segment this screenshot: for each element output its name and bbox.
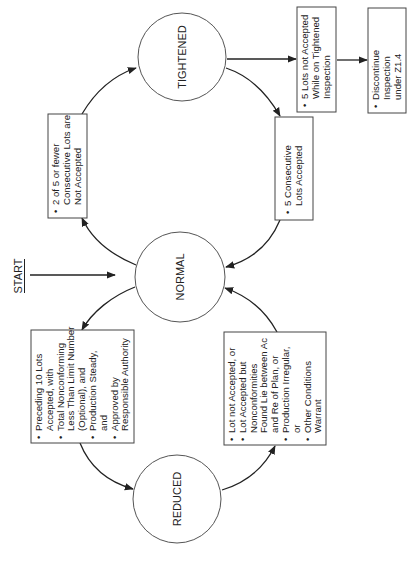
condition-line: 5 Lots not Accepted (299, 15, 310, 99)
condition-line: Warrant (312, 399, 323, 433)
condition-line: Consecutive Lots are (61, 115, 72, 205)
condition-line: Approved by (109, 377, 120, 431)
start-label-group: START (12, 258, 25, 293)
state-reduced: REDUCED (133, 455, 221, 543)
discontinue-box: • Discontinue Inspection under Z1.4 (368, 8, 406, 113)
edge-normal-to-tighten-condition (82, 218, 136, 265)
condition-line: 5 Consecutive (282, 145, 293, 206)
state-reduced-label: REDUCED (171, 472, 183, 526)
condition-line: Lot Accepted but (237, 361, 248, 433)
bullet: • (87, 436, 98, 439)
condition-line: Discontinue (370, 50, 381, 100)
edge-condition-to-normal (226, 220, 280, 267)
bullet: • (280, 438, 291, 441)
bullet: • (299, 104, 310, 107)
condition-normal-to-tightened: • 2 of 5 or fewer Consecutive Lots are N… (48, 114, 87, 218)
bullet: • (109, 436, 120, 439)
state-normal-label: NORMAL (174, 253, 186, 300)
condition-normal-to-reduced: • Preceding 10 Lots Accepted, with • Tot… (31, 326, 134, 443)
bullet: • (282, 211, 293, 214)
condition-line: Total Nonconforming (55, 343, 66, 431)
condition-line: Nonconformities (248, 363, 259, 433)
edge-tightened-to-normal-condition (226, 68, 280, 116)
state-tightened: TIGHTENED (138, 13, 226, 101)
switching-rules-diagram: TIGHTENED NORMAL REDUCED START • 2 of 5 … (0, 0, 411, 565)
bullet: • (370, 105, 381, 108)
edge-condition-back-to-normal (225, 288, 277, 332)
bullet: • (50, 210, 61, 213)
condition-tightened-to-discontinue: • 5 Lots not Accepted While on Tightened… (297, 7, 336, 112)
bullet: • (302, 438, 313, 441)
condition-line: or (291, 424, 302, 433)
state-normal: NORMAL (135, 232, 225, 322)
condition-line: Production Irregular, (280, 347, 291, 433)
condition-line: (Optional), and (76, 368, 87, 431)
condition-line: Production Steady, (87, 351, 98, 431)
condition-line: Not Accepted (72, 148, 83, 205)
condition-line: 2 of 5 or fewer (50, 143, 61, 205)
condition-reduced-to-normal: • Lot not Accepted, or • Lot Accepted bu… (224, 332, 326, 445)
condition-line: Accepted, with (44, 369, 55, 431)
condition-line: Inspection (321, 55, 332, 99)
condition-line: and Re of Plan, or (269, 355, 280, 433)
condition-line: Other Conditions (302, 361, 313, 433)
bullet: • (33, 436, 44, 439)
condition-line: Responsible Authority (119, 338, 130, 431)
edge-reduced-to-normal-condition (222, 446, 275, 490)
condition-tightened-to-normal: • 5 Consecutive Lots Accepted (275, 117, 313, 220)
condition-line: Inspection (381, 56, 392, 100)
condition-line: and (98, 415, 109, 431)
edge-normal-to-reduce-condition (82, 287, 135, 330)
bullet: • (237, 438, 248, 441)
start-label: START (12, 258, 24, 293)
state-tightened-label: TIGHTENED (176, 25, 188, 89)
condition-line: While on Tightened (310, 17, 321, 99)
edge-condition-to-reduced (80, 443, 133, 489)
condition-line: Found Lie between Ac (258, 338, 269, 433)
edge-condition-to-tightened (82, 68, 136, 114)
condition-line: Lot not Accepted, or (226, 347, 237, 433)
bullet: • (226, 438, 237, 441)
bullet: • (55, 436, 66, 439)
condition-line: under Z1.4 (392, 53, 403, 100)
condition-line: Less Than Limit Number (65, 326, 76, 431)
condition-line: Lots Accepted (293, 146, 304, 206)
condition-line: Preceding 10 Lots (33, 353, 44, 431)
